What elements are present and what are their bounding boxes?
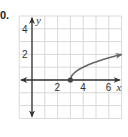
x-tick-label: 6 bbox=[106, 82, 112, 93]
y-axis-title: y bbox=[35, 14, 41, 26]
x-tick-label: 2 bbox=[55, 82, 61, 93]
x-tick-label: 4 bbox=[80, 82, 86, 93]
start-point-dot bbox=[68, 77, 73, 82]
graph: 24642xy bbox=[0, 0, 128, 137]
x-axis-title: x bbox=[116, 81, 122, 93]
y-tick-label: 4 bbox=[22, 24, 28, 35]
y-tick-label: 2 bbox=[22, 49, 28, 60]
